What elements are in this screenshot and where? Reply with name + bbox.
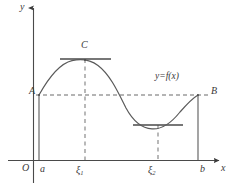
- tick-label-b: b: [200, 164, 205, 174]
- x-axis-label: x: [221, 163, 225, 173]
- point-c-marker: [84, 59, 86, 61]
- xi1-subscript: 1: [80, 169, 83, 176]
- figure-container: y x O a b A B C ξ1 ξ2 y=f(x): [0, 0, 233, 192]
- tick-label-xi2: ξ2: [148, 165, 156, 175]
- point-label-b: B: [211, 86, 217, 96]
- point-label-c: C: [81, 40, 88, 50]
- curve-equation-label: y=f(x): [155, 72, 179, 82]
- math-diagram-svg: [0, 0, 233, 192]
- tick-label-xi1: ξ1: [76, 165, 84, 175]
- origin-label: O: [22, 163, 29, 173]
- point-b-marker: [197, 94, 199, 96]
- tick-label-a: a: [40, 164, 45, 174]
- point-label-a: A: [29, 86, 35, 96]
- y-axis-label: y: [20, 2, 24, 12]
- point-a-marker: [38, 94, 40, 96]
- xi2-subscript: 2: [152, 169, 155, 176]
